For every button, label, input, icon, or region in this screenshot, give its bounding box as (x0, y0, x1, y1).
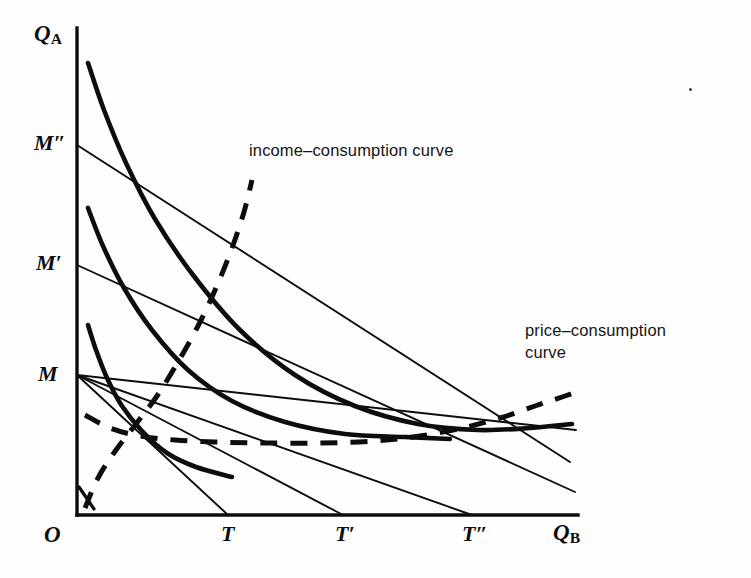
income-consumption-curve-label: income–consumption curve (249, 140, 453, 162)
y-tick-M: M (38, 363, 58, 385)
origin-label: O (44, 523, 61, 546)
economics-diagram (0, 0, 751, 578)
y-tick-M-doubleprime: M″ (34, 132, 66, 154)
y-tick-M-prime: M′ (36, 252, 62, 274)
x-tick-T-prime: T′ (335, 523, 355, 545)
y-axis-label: QA (34, 22, 62, 46)
x-tick-T-doubleprime: T″ (462, 523, 488, 545)
scan-speck (689, 88, 692, 91)
figure-container: QA QB O M″ M′ M T T′ T″ income–consumpti… (0, 0, 751, 578)
indifference-curve-1 (88, 325, 232, 477)
indifference-curve-3 (88, 63, 572, 430)
budget-line-M-prime (77, 265, 575, 492)
chart-lines (77, 28, 580, 515)
budget-line-M-T (77, 375, 228, 515)
x-axis-label: QB (553, 521, 580, 545)
price-consumption-curve (85, 391, 580, 443)
indifference-curve-2 (88, 208, 450, 439)
price-consumption-curve-label: price–consumption curve (525, 320, 666, 364)
x-tick-T: T (221, 523, 234, 545)
